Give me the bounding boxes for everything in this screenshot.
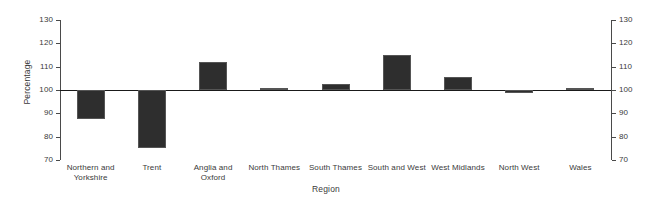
bar-west-midlands — [444, 77, 472, 90]
bar-northern-and-yorkshire — [77, 90, 105, 119]
bar-anglia-and-oxford — [199, 62, 227, 90]
y-ticklabel-left-100: 100 — [32, 86, 53, 94]
x-category-label-northern-and-yorkshire: Northern and Yorkshire — [60, 163, 121, 182]
bar-south-thames — [322, 84, 350, 90]
y-ticklabel-right-90: 90 — [619, 109, 640, 117]
y-tick-right-110 — [612, 67, 616, 68]
x-axis-category-labels: Northern and YorkshireTrentAnglia and Ox… — [60, 163, 611, 185]
y-ticklabel-right-70: 70 — [619, 156, 640, 164]
y-ticklabel-left-120: 120 — [32, 39, 53, 47]
y-ticklabel-left-80: 80 — [32, 133, 53, 141]
y-tick-right-100 — [612, 90, 616, 91]
y-ticklabel-left-130: 130 — [32, 16, 53, 24]
y-tick-right-80 — [612, 137, 616, 138]
y-tick-right-130 — [612, 20, 616, 21]
y-ticklabel-right-100: 100 — [619, 86, 640, 94]
x-category-label-south-thames: South Thames — [305, 163, 366, 173]
bar-trent — [138, 90, 166, 148]
y-ticklabel-left-90: 90 — [32, 109, 53, 117]
x-category-label-wales: Wales — [550, 163, 611, 173]
x-category-label-anglia-and-oxford: Anglia and Oxford — [182, 163, 243, 182]
bar-chart: Percentage Region 708090100110120130 708… — [0, 0, 652, 204]
y-ticklabel-left-110: 110 — [32, 63, 53, 71]
bar-south-and-west — [383, 55, 411, 90]
y-tick-right-70 — [612, 160, 616, 161]
x-category-label-west-midlands: West Midlands — [427, 163, 488, 173]
y-ticklabel-right-120: 120 — [619, 39, 640, 47]
y-ticklabel-right-130: 130 — [619, 16, 640, 24]
y-tick-left-70 — [56, 160, 60, 161]
bar-wales — [566, 88, 594, 90]
x-category-label-north-thames: North Thames — [244, 163, 305, 173]
bar-north-west — [505, 90, 533, 93]
x-category-label-north-west: North West — [489, 163, 550, 173]
y-ticklabel-right-110: 110 — [619, 63, 640, 71]
y-tick-right-120 — [612, 43, 616, 44]
bars-group — [60, 20, 611, 160]
x-category-label-south-and-west: South and West — [366, 163, 427, 173]
bar-north-thames — [260, 88, 288, 90]
y-ticklabel-left-70: 70 — [32, 156, 53, 164]
y-tick-right-90 — [612, 113, 616, 114]
x-axis-label: Region — [0, 184, 652, 194]
x-category-label-trent: Trent — [121, 163, 182, 173]
y-ticklabel-right-80: 80 — [619, 133, 640, 141]
